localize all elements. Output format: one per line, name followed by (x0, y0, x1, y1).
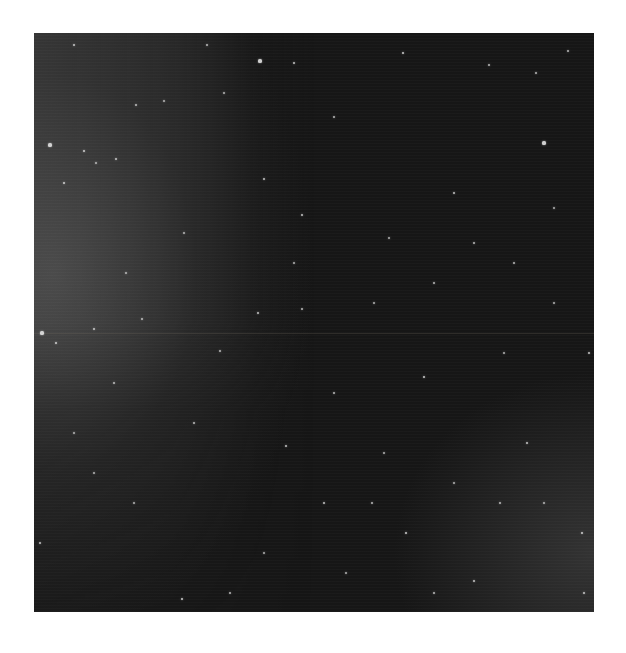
star (95, 162, 97, 164)
star (433, 592, 435, 594)
star (113, 382, 115, 384)
star (93, 472, 95, 474)
star (581, 532, 584, 535)
star (93, 328, 96, 331)
star (402, 52, 405, 55)
star (473, 242, 475, 244)
star (39, 542, 42, 545)
star (229, 592, 231, 594)
star (40, 331, 43, 334)
star (63, 182, 66, 185)
star (219, 350, 221, 352)
star (553, 302, 555, 304)
star (83, 150, 86, 153)
star (48, 143, 51, 146)
star (371, 502, 373, 504)
star (383, 452, 385, 454)
star (163, 100, 165, 102)
star (135, 104, 137, 106)
star-layer (34, 33, 594, 612)
star (333, 116, 335, 118)
star (542, 141, 545, 144)
star (567, 50, 569, 52)
star (258, 59, 261, 62)
star (526, 442, 529, 445)
star (433, 282, 435, 284)
star (405, 532, 408, 535)
star (293, 262, 295, 264)
star (206, 44, 208, 46)
star (263, 178, 266, 181)
star (263, 552, 265, 554)
star (345, 572, 347, 574)
star (535, 72, 537, 74)
star (183, 232, 185, 234)
star (181, 598, 184, 601)
star (388, 237, 390, 239)
star (125, 272, 127, 274)
star (488, 64, 490, 66)
star (323, 502, 326, 505)
star (543, 502, 545, 504)
star (293, 62, 296, 65)
star (453, 192, 456, 195)
star (141, 318, 143, 320)
star (588, 352, 591, 355)
star (73, 44, 76, 47)
star (423, 376, 426, 379)
star (257, 312, 260, 315)
star (223, 92, 225, 94)
star (193, 422, 195, 424)
star (503, 352, 505, 354)
star (499, 502, 501, 504)
starfield-image: Star field (34, 33, 594, 612)
star (73, 432, 75, 434)
star (301, 308, 303, 310)
star (301, 214, 304, 217)
star (373, 302, 375, 304)
star (133, 502, 135, 504)
star (473, 580, 476, 583)
star (333, 392, 335, 394)
star (285, 445, 288, 448)
star (513, 262, 515, 264)
star (453, 482, 455, 484)
star (553, 207, 555, 209)
star (55, 342, 58, 345)
star (115, 158, 118, 161)
star (583, 592, 586, 595)
